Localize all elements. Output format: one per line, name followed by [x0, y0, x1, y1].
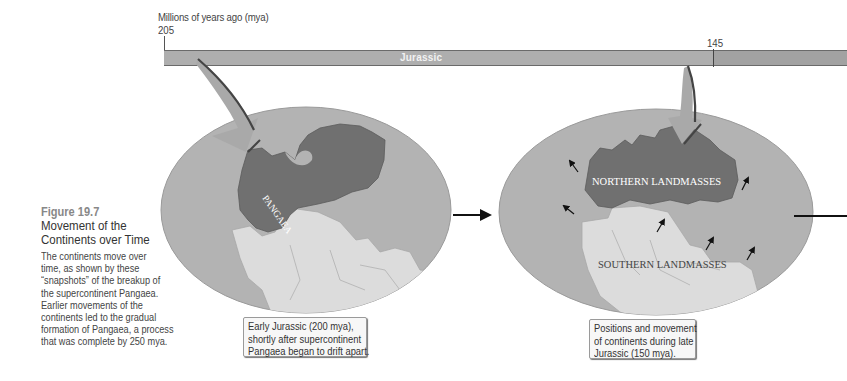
map2-caption-line: Positions and movement — [594, 323, 683, 336]
globe-early-jurassic: PANGAEA — [161, 107, 451, 325]
map1-caption-box: Early Jurassic (200 mya), shortly after … — [243, 317, 367, 357]
diagram-canvas: PANGAEA NORTHERN LANDMASSES SOUTHERN LAN… — [0, 0, 847, 381]
map2-caption-line: of continents during late — [594, 336, 683, 349]
southern-landmasses-label: SOUTHERN LANDMASSES — [598, 259, 727, 270]
northern-landmasses-label: NORTHERN LANDMASSES — [592, 176, 721, 187]
map1-caption-line: Early Jurassic (200 mya), — [248, 321, 353, 334]
map1-caption-line: shortly after supercontinent — [248, 334, 353, 347]
map2-caption-line: Jurassic (150 mya). — [594, 348, 683, 361]
globe-late-jurassic: NORTHERN LANDMASSES SOUTHERN LANDMASSES — [499, 109, 813, 322]
map2-caption-box: Positions and movement of continents dur… — [589, 319, 696, 359]
map1-caption-line: Pangaea began to drift apart. — [248, 346, 353, 359]
